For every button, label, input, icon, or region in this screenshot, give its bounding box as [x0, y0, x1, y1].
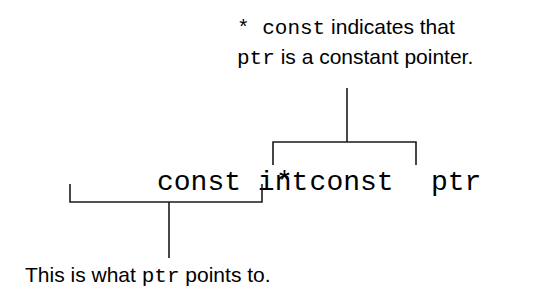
code-star-const: * const: [237, 17, 325, 40]
annotation-text: points to.: [180, 263, 271, 286]
annotation-text: This is what: [25, 263, 142, 286]
annotation-text: indicates that: [325, 15, 455, 38]
bottom-annotation: This is what ptr points to.: [5, 263, 283, 288]
top-annotation-line2: ptr is a constant pointer.: [217, 45, 485, 70]
code-star-const: * const: [276, 167, 394, 198]
annotation-text: is a constant pointer.: [275, 45, 473, 68]
code-ptr: ptr: [237, 47, 275, 70]
top-bracket: [273, 142, 416, 165]
code-line: const int * const ptr: [73, 167, 532, 198]
const-pointer-diagram: * const indicates that ptr is a constant…: [0, 0, 557, 306]
code-ptr: ptr: [431, 167, 481, 198]
code-ptr: ptr: [142, 265, 180, 288]
top-annotation-line1: * const indicates that: [217, 15, 467, 40]
